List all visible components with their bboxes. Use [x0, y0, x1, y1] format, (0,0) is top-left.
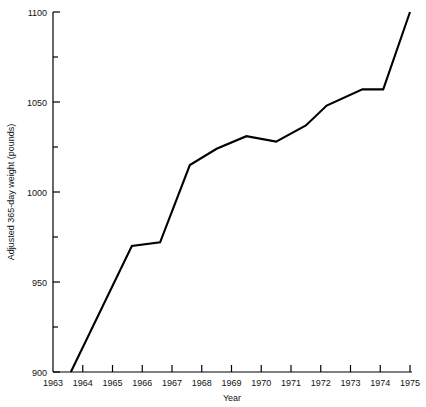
y-tick-label: 1050 [27, 98, 47, 108]
x-tick-label: 1970 [251, 378, 271, 388]
chart-container: 900950100010501100 Adjusted 365-day weig… [0, 0, 426, 407]
y-axis: 900950100010501100 Adjusted 365-day weig… [6, 8, 60, 378]
x-axis-title: Year [223, 393, 241, 403]
y-axis-ticks [53, 12, 60, 372]
y-tick-label: 950 [32, 278, 47, 288]
x-tick-label: 1963 [43, 378, 63, 388]
x-tick-label: 1972 [311, 378, 331, 388]
x-tick-label: 1969 [221, 378, 241, 388]
x-tick-label: 1974 [370, 378, 390, 388]
x-tick-label: 1964 [73, 378, 93, 388]
y-tick-label: 1000 [27, 188, 47, 198]
data-series-line [71, 12, 410, 372]
x-tick-label: 1968 [192, 378, 212, 388]
y-tick-label: 1100 [28, 8, 47, 18]
x-tick-label: 1965 [102, 378, 122, 388]
y-axis-title: Adjusted 365-day weight (pounds) [6, 124, 16, 261]
x-tick-label: 1975 [400, 378, 420, 388]
y-tick-label: 900 [32, 368, 47, 378]
x-tick-label: 1973 [340, 378, 360, 388]
y-axis-tick-labels: 900950100010501100 [27, 8, 47, 378]
x-tick-label: 1971 [281, 378, 301, 388]
x-tick-label: 1967 [162, 378, 182, 388]
x-tick-label: 1966 [132, 378, 152, 388]
x-axis-ticks [83, 365, 410, 372]
x-axis: 1963196419651966196719681969197019711972… [43, 365, 420, 403]
x-axis-tick-labels: 1963196419651966196719681969197019711972… [43, 378, 420, 388]
line-chart: 900950100010501100 Adjusted 365-day weig… [0, 0, 426, 407]
